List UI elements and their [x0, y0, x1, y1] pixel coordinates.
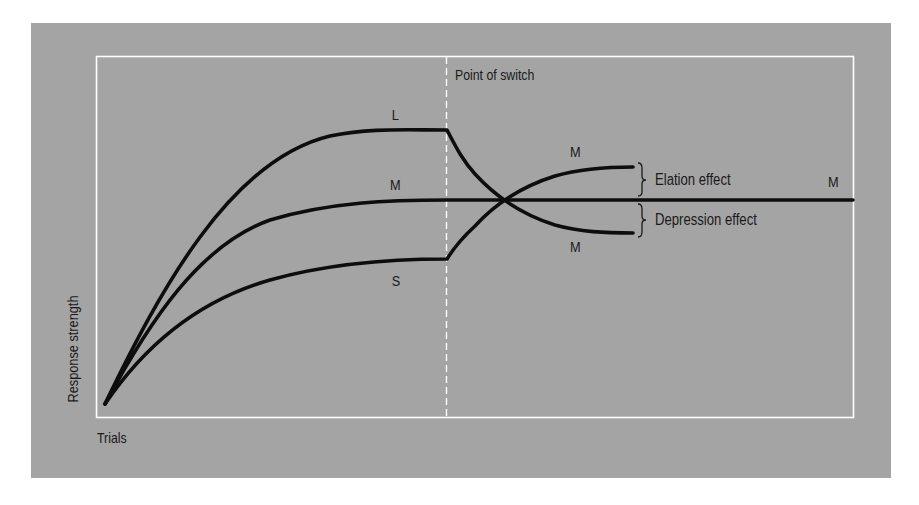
curve-S-label: S — [392, 272, 401, 289]
depression-brace — [638, 204, 646, 237]
curve-M-upper-label: M — [570, 143, 581, 160]
plot-frame — [97, 57, 854, 418]
curve-L-label: L — [392, 106, 399, 123]
curve-M-phase1-label: M — [390, 176, 401, 193]
elation-effect-label: Elation effect — [655, 171, 731, 189]
curve-M-right-label: M — [828, 173, 839, 190]
point-of-switch-label: Point of switch — [455, 66, 534, 83]
curve-L — [105, 130, 633, 404]
elation-brace — [638, 163, 646, 196]
y-axis-label: Response strength — [64, 295, 81, 402]
curve-M-lower-label: M — [570, 238, 581, 255]
depression-effect-label: Depression effect — [655, 211, 757, 229]
x-axis-label: Trials — [97, 429, 127, 446]
